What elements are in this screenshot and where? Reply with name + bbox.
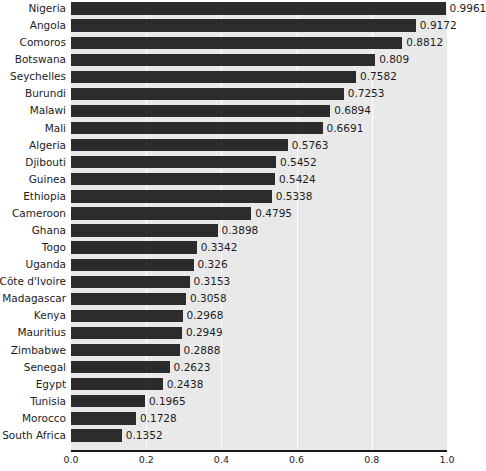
category-label: Djibouti <box>0 154 66 171</box>
bar <box>71 293 186 305</box>
x-tick-label: 0.8 <box>364 454 379 465</box>
x-tick-label: 0.0 <box>63 454 78 465</box>
category-label: Mauritius <box>0 324 66 341</box>
value-label: 0.3898 <box>218 222 259 239</box>
value-label: 0.7253 <box>344 85 385 102</box>
bar-row: Nigeria0.9961 <box>0 0 476 17</box>
value-label: 0.5763 <box>288 137 329 154</box>
value-label: 0.3342 <box>197 239 238 256</box>
value-label: 0.1352 <box>122 427 163 444</box>
category-label: South Africa <box>0 427 66 444</box>
bar-row: Kenya0.2968 <box>0 307 476 324</box>
bar <box>71 105 330 117</box>
bar-row: Madagascar0.3058 <box>0 290 476 307</box>
value-label: 0.1965 <box>145 393 186 410</box>
bar-rows: Nigeria0.9961Angola0.9172Comoros0.8812Bo… <box>0 0 476 444</box>
category-label: Guinea <box>0 171 66 188</box>
value-label: 0.9172 <box>416 17 457 34</box>
bar <box>71 19 416 31</box>
value-label: 0.326 <box>194 256 228 273</box>
bar-row: Cameroon0.4795 <box>0 205 476 222</box>
bar-row: Malawi0.6894 <box>0 102 476 119</box>
value-label: 0.5424 <box>275 171 316 188</box>
value-label: 0.2623 <box>170 359 211 376</box>
bar <box>71 395 145 407</box>
bar-row: South Africa0.1352 <box>0 427 476 444</box>
value-label: 0.7582 <box>356 68 397 85</box>
x-tick-label: 1.0 <box>439 454 454 465</box>
bar-row: Angola0.9172 <box>0 17 476 34</box>
bar-row: Egypt0.2438 <box>0 376 476 393</box>
category-label: Zimbabwe <box>0 342 66 359</box>
bar-row: Guinea0.5424 <box>0 171 476 188</box>
bar-row: Algeria0.5763 <box>0 137 476 154</box>
category-label: Ethiopia <box>0 188 66 205</box>
bar <box>71 241 197 253</box>
category-label: Seychelles <box>0 68 66 85</box>
value-label: 0.4795 <box>251 205 292 222</box>
bar-row: Burundi0.7253 <box>0 85 476 102</box>
value-label: 0.8812 <box>402 34 443 51</box>
bar <box>71 259 194 271</box>
x-tick-label: 0.6 <box>289 454 304 465</box>
bar-row: Mauritius0.2949 <box>0 324 476 341</box>
bar <box>71 37 402 49</box>
bar-row: Tunisia0.1965 <box>0 393 476 410</box>
value-label: 0.5452 <box>276 154 317 171</box>
category-label: Kenya <box>0 307 66 324</box>
value-label: 0.6691 <box>323 120 364 137</box>
bar-row: Djibouti0.5452 <box>0 154 476 171</box>
category-label: Botswana <box>0 51 66 68</box>
category-label: Mali <box>0 120 66 137</box>
value-label: 0.6894 <box>330 102 371 119</box>
bar <box>71 54 375 66</box>
bar <box>71 412 136 424</box>
bar-row: Botswana0.809 <box>0 51 476 68</box>
category-label: Angola <box>0 17 66 34</box>
category-label: Tunisia <box>0 393 66 410</box>
category-label: Uganda <box>0 256 66 273</box>
bar <box>71 190 272 202</box>
value-label: 0.9961 <box>446 0 486 17</box>
bar-row: Zimbabwe0.2888 <box>0 342 476 359</box>
value-label: 0.2968 <box>183 307 224 324</box>
category-label: Morocco <box>0 410 66 427</box>
value-label: 0.3153 <box>190 273 231 290</box>
bar <box>71 276 190 288</box>
bar-row: Morocco0.1728 <box>0 410 476 427</box>
bar <box>71 310 183 322</box>
value-label: 0.2949 <box>182 324 223 341</box>
bar <box>71 173 275 185</box>
value-label: 0.5338 <box>272 188 313 205</box>
category-label: Nigeria <box>0 0 66 17</box>
bar <box>71 71 356 83</box>
bar-row: Seychelles0.7582 <box>0 68 476 85</box>
category-label: Algeria <box>0 137 66 154</box>
bar-row: Côte d'Ivoire0.3153 <box>0 273 476 290</box>
value-label: 0.809 <box>375 51 409 68</box>
category-label: Cameroon <box>0 205 66 222</box>
value-label: 0.2438 <box>163 376 204 393</box>
bar-row: Senegal0.2623 <box>0 359 476 376</box>
bar <box>71 156 276 168</box>
bar <box>71 122 323 134</box>
bar <box>71 429 122 441</box>
x-tick-label: 0.2 <box>139 454 154 465</box>
bar <box>71 327 182 339</box>
category-label: Malawi <box>0 102 66 119</box>
x-axis-line <box>71 450 447 452</box>
category-label: Côte d'Ivoire <box>0 273 66 290</box>
bar-row: Ghana0.3898 <box>0 222 476 239</box>
bar-row: Uganda0.326 <box>0 256 476 273</box>
bar-row: Togo0.3342 <box>0 239 476 256</box>
x-tick-label: 0.4 <box>214 454 229 465</box>
category-label: Togo <box>0 239 66 256</box>
bar <box>71 224 218 236</box>
bar-row: Ethiopia0.5338 <box>0 188 476 205</box>
bar <box>71 2 446 14</box>
value-label: 0.2888 <box>180 342 221 359</box>
category-label: Egypt <box>0 376 66 393</box>
bar-row: Mali0.6691 <box>0 120 476 137</box>
bar-row: Comoros0.8812 <box>0 34 476 51</box>
category-label: Burundi <box>0 85 66 102</box>
